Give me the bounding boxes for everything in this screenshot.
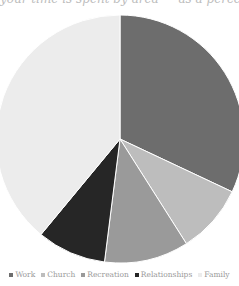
legend-item-church: Church	[41, 270, 75, 279]
legend-label: Work	[15, 270, 35, 279]
chart-legend: WorkChurchRecreationRelationshipsFamily	[0, 270, 239, 279]
legend-label: Recreation	[87, 270, 129, 279]
legend-swatch-icon	[9, 273, 13, 277]
legend-item-family: Family	[198, 270, 229, 279]
legend-label: Family	[204, 270, 229, 279]
pie-chart	[0, 0, 239, 264]
legend-swatch-icon	[41, 273, 45, 277]
pie-chart-svg	[0, 0, 239, 264]
legend-label: Church	[47, 270, 75, 279]
legend-label: Relationships	[141, 270, 192, 279]
legend-item-work: Work	[9, 270, 35, 279]
legend-item-recreation: Recreation	[81, 270, 129, 279]
legend-swatch-icon	[198, 273, 202, 277]
legend-swatch-icon	[81, 273, 85, 277]
legend-swatch-icon	[135, 273, 139, 277]
legend-item-relationships: Relationships	[135, 270, 192, 279]
